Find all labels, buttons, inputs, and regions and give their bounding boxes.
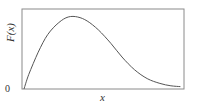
plot-frame [22, 9, 184, 89]
chart: 0 x F(x) [0, 0, 197, 110]
y-tick-zero: 0 [5, 83, 10, 94]
y-axis-label: F(x) [4, 23, 17, 43]
data-curve [24, 16, 180, 89]
x-axis-label: x [99, 91, 105, 103]
